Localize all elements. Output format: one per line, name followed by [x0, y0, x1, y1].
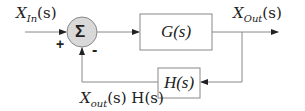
sigma-symbol: Σ	[75, 22, 85, 42]
forward-block-label: G(s)	[140, 22, 212, 42]
plus-sign: +	[56, 36, 64, 52]
block-diagram: XIn(s) XOut(s) Xout(s) H(s) Σ + - G(s) H…	[0, 0, 305, 111]
minus-sign: -	[92, 41, 97, 59]
feedback-block-label: H(s)	[158, 73, 200, 93]
output-label: XOut(s)	[233, 4, 282, 24]
input-label: XIn(s)	[16, 4, 56, 24]
feedback-label: Xout(s) H(s)	[80, 89, 164, 109]
